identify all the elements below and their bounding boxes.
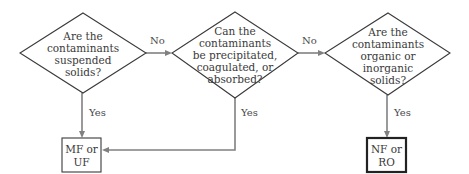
edge-label-yes-1: Yes [88,107,106,118]
connector-d3-o2 [384,95,390,138]
outcome-mf-uf: MF or UF [62,138,101,172]
connector-d1-o1 [79,93,85,138]
edge-label-no-2: No [302,35,317,46]
svg-text:absorbed?: absorbed? [208,73,263,85]
edge-label-yes-2: Yes [240,107,258,118]
svg-text:MF or: MF or [65,143,99,155]
svg-text:Are the: Are the [62,30,102,42]
svg-text:RO: RO [378,156,395,168]
svg-text:be precipitated,: be precipitated, [193,49,278,61]
svg-text:UF: UF [73,156,89,168]
svg-text:Can the: Can the [214,25,256,37]
svg-text:NF or: NF or [371,143,403,155]
connector-d1-d2 [146,50,172,56]
connector-d2-d3 [298,50,325,56]
flowchart: No No Yes Yes Yes Are the contaminants s… [0,0,469,174]
svg-text:Are the: Are the [367,26,407,38]
connector-d2-o1 [102,98,235,153]
outcome-nf-ro: NF or RO [367,138,406,172]
edge-label-no-1: No [150,35,165,46]
decision-organic-inorganic: Are the contaminants organic or inorgani… [325,13,450,95]
svg-text:contaminants: contaminants [47,42,119,54]
svg-text:contaminants: contaminants [352,38,424,50]
svg-text:organic or: organic or [360,50,416,62]
svg-text:suspended: suspended [55,54,112,66]
svg-text:solids?: solids? [370,74,407,86]
decision-suspended-solids: Are the contaminants suspended solids? [20,13,146,93]
svg-text:solids?: solids? [65,66,102,78]
edge-label-yes-3: Yes [393,107,411,118]
svg-text:inorganic: inorganic [363,62,414,74]
decision-precipitated-coagulated: Can the contaminants be precipitated, co… [172,12,298,98]
svg-text:coagulated, or: coagulated, or [197,61,275,73]
svg-text:contaminants: contaminants [199,37,271,49]
